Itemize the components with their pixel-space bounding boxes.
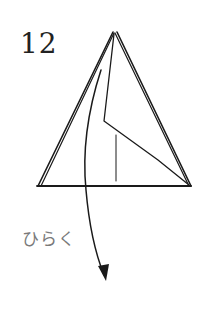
triangle-right-edge-inner — [115, 33, 188, 184]
instruction-label: ひらく — [22, 231, 76, 248]
origami-fold-diagram — [0, 0, 211, 313]
arrow-head-icon — [98, 264, 109, 281]
open-arrow-shaft — [85, 70, 104, 275]
triangle-right-edge-outer — [117, 32, 191, 186]
inner-crease — [104, 34, 189, 185]
triangle-left-edge-outer — [38, 32, 113, 186]
triangle-left-edge-inner — [41, 33, 114, 186]
